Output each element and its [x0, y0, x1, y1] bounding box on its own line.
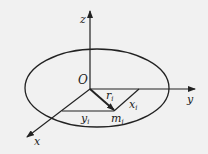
y-axis-label: y — [187, 94, 193, 105]
z-axis-label: z — [80, 14, 86, 25]
x-axis-label: x — [34, 136, 40, 147]
diagram-canvas — [0, 0, 208, 154]
r-i-label: ri — [106, 90, 114, 103]
m-i-label: mi — [111, 113, 124, 126]
m-main: m — [111, 112, 121, 125]
x-sub: i — [135, 104, 137, 112]
ellipse-body — [25, 49, 169, 127]
y-sub: i — [87, 118, 89, 126]
origin-label: O — [78, 74, 88, 86]
x-i-label: xi — [129, 99, 137, 112]
r-sub: i — [111, 95, 113, 103]
y-i-label: yi — [81, 113, 89, 126]
m-sub: i — [121, 118, 123, 126]
